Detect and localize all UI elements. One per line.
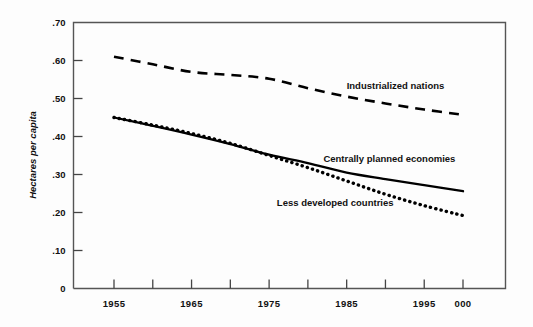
y-tick-label: .10 [52, 245, 65, 256]
y-tick-label: .70 [52, 17, 65, 28]
y-tick-label: 0 [60, 283, 65, 294]
y-tick-label: .20 [52, 207, 65, 218]
series-annotation-2: Less developed countries [277, 197, 394, 208]
x-tick-label: 000 [454, 298, 471, 309]
y-axis-title-label: Hectares per capita [27, 111, 38, 199]
series-annotation-1: Centrally planned economies [323, 153, 455, 164]
y-tick-label: .30 [52, 169, 65, 180]
y-tick-label: .40 [52, 131, 65, 142]
y-axis: .70.60.50.40.30.20.100 [52, 17, 82, 294]
y-tick-label: .50 [52, 93, 65, 104]
y-axis-title: Hectares per capita [27, 111, 38, 199]
x-tick-label: 1965 [180, 298, 203, 309]
x-axis: 19551965197519851995000 [103, 280, 472, 309]
x-tick-label: 1995 [413, 298, 436, 309]
chart-canvas: .70.60.50.40.30.20.100 19551965197519851… [0, 0, 533, 327]
x-tick-label: 1955 [103, 298, 126, 309]
y-tick-label: .60 [52, 55, 65, 66]
x-tick-label: 1985 [335, 298, 358, 309]
chart-figure: .70.60.50.40.30.20.100 19551965197519851… [0, 0, 533, 327]
series-annotation-0: Industrialized nations [347, 80, 445, 91]
x-tick-label: 1975 [258, 298, 281, 309]
